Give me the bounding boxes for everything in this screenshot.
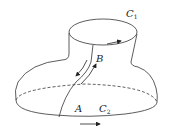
surface-diagram: C1 B A C2: [0, 0, 170, 136]
neck-left-side: [15, 33, 69, 100]
top-boundary-curve: [69, 19, 137, 45]
cut-arrow-down: [76, 60, 87, 76]
bottom-boundary-back: [16, 84, 157, 102]
label-b: B: [95, 53, 103, 64]
label-a: A: [74, 103, 82, 114]
label-c1: C1: [126, 8, 137, 20]
label-c2: C2: [99, 103, 111, 115]
bottom-boundary-front: [16, 100, 157, 116]
